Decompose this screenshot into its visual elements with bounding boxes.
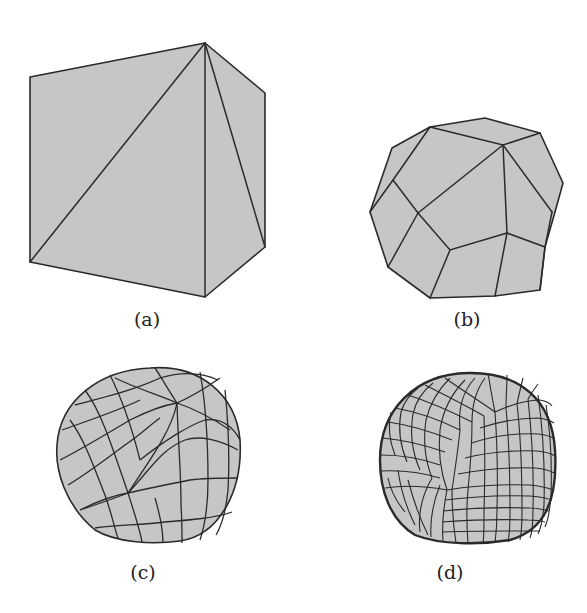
caption-b: (b) (454, 308, 481, 330)
caption-a: (a) (134, 308, 160, 330)
figure-graphics (0, 0, 587, 613)
caption-d: (d) (437, 561, 464, 583)
panel-d-fine-quad-mesh (380, 373, 555, 544)
figure: (a) (b) (c) (d) (0, 0, 587, 613)
panel-a-cube-mesh (30, 43, 265, 297)
panel-c-quad-mesh (57, 368, 241, 543)
panel-b-polyhedron-mesh (370, 118, 563, 298)
caption-c: (c) (130, 561, 155, 583)
